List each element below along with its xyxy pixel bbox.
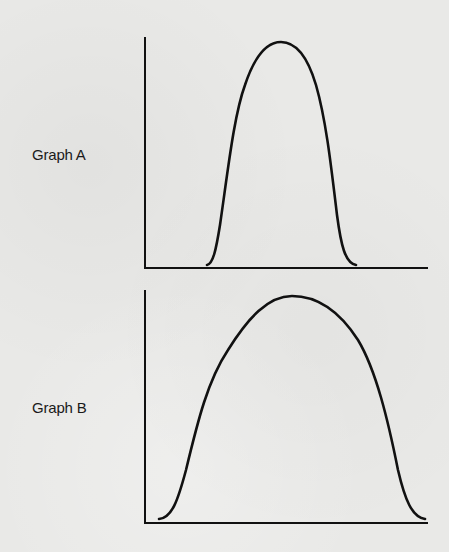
graphs-figure <box>0 0 449 552</box>
graph-b <box>144 290 428 524</box>
graph-a <box>144 37 428 269</box>
graph-a-curve <box>207 42 356 265</box>
graph-b-curve <box>159 296 425 519</box>
